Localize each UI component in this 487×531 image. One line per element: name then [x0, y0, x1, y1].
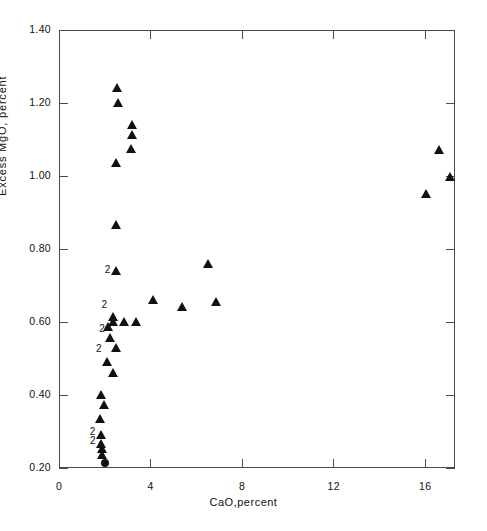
- y-axis-tick-label: 0.40: [5, 388, 51, 400]
- y-axis-tick-label: 1.20: [5, 96, 51, 108]
- data-point-marker: [105, 333, 115, 342]
- data-point-marker: [111, 158, 121, 167]
- data-point-marker: [111, 266, 121, 275]
- y-axis-tick: [59, 249, 68, 250]
- y-axis-tick-label: 0.20: [5, 461, 51, 473]
- data-point-marker: [211, 297, 221, 306]
- x-axis-tick-label: 8: [217, 480, 267, 492]
- duplicate-count-label: 2: [105, 265, 111, 275]
- y-axis-tick: [446, 30, 455, 31]
- x-axis-tick-label: 0: [34, 480, 84, 492]
- x-axis-tick: [425, 30, 426, 39]
- y-axis-tick: [59, 322, 68, 323]
- data-point-marker: [148, 295, 158, 304]
- data-point-marker: [445, 172, 455, 181]
- duplicate-count-label: 2: [102, 300, 108, 310]
- x-axis-tick-label: 4: [126, 480, 176, 492]
- duplicate-count-label: 2: [96, 344, 102, 354]
- x-axis-tick: [242, 30, 243, 39]
- data-point-marker: [96, 390, 106, 399]
- data-point-marker: [97, 450, 107, 459]
- y-axis-tick: [59, 468, 68, 469]
- y-axis-tick: [59, 176, 68, 177]
- data-point-marker: [127, 120, 137, 129]
- data-point-marker: [126, 144, 136, 153]
- data-point-marker: [111, 343, 121, 352]
- scatter-chart-figure: 04812160.200.400.600.801.001.201.40 2222…: [0, 0, 487, 531]
- y-axis-tick-label: 0.80: [5, 242, 51, 254]
- x-axis-tick: [425, 459, 426, 468]
- data-point-marker: [108, 368, 118, 377]
- data-point-marker: [102, 357, 112, 366]
- data-point-marker: [111, 220, 121, 229]
- x-axis-tick: [333, 459, 334, 468]
- y-axis-title: Excess MgO, percent: [0, 16, 8, 196]
- x-axis-tick: [242, 459, 243, 468]
- data-point-marker: [113, 98, 123, 107]
- data-point-marker: [434, 145, 444, 154]
- data-point-marker: [95, 414, 105, 423]
- y-axis-tick-label: 0.60: [5, 315, 51, 327]
- x-axis-tick: [333, 30, 334, 39]
- y-axis-tick-label: 1.40: [5, 23, 51, 35]
- x-axis-tick: [150, 30, 151, 39]
- duplicate-count-label: 2: [99, 324, 105, 334]
- data-point-marker: [99, 400, 109, 409]
- y-axis-tick: [446, 395, 455, 396]
- x-axis-tick-label: 16: [400, 480, 450, 492]
- data-point-marker: [421, 189, 431, 198]
- x-axis-tick: [59, 30, 60, 39]
- y-axis-tick: [446, 103, 455, 104]
- data-point-marker: [101, 459, 109, 467]
- x-axis-title: CaO,percent: [0, 496, 487, 508]
- y-axis-tick: [446, 322, 455, 323]
- data-point-marker: [112, 83, 122, 92]
- x-axis-tick: [150, 459, 151, 468]
- y-axis-tick: [59, 30, 68, 31]
- y-axis-tick: [59, 395, 68, 396]
- data-point-marker: [119, 317, 129, 326]
- y-axis-tick: [446, 249, 455, 250]
- data-point-marker: [96, 430, 106, 439]
- y-axis-tick: [446, 468, 455, 469]
- data-point-marker: [203, 259, 213, 268]
- x-axis-tick-label: 12: [309, 480, 359, 492]
- data-point-marker: [127, 130, 137, 139]
- y-axis-tick: [59, 103, 68, 104]
- data-point-marker: [177, 302, 187, 311]
- y-axis-tick-label: 1.00: [5, 169, 51, 181]
- duplicate-count-label: 2: [90, 436, 96, 446]
- data-point-marker: [131, 317, 141, 326]
- plot-area: [59, 30, 455, 468]
